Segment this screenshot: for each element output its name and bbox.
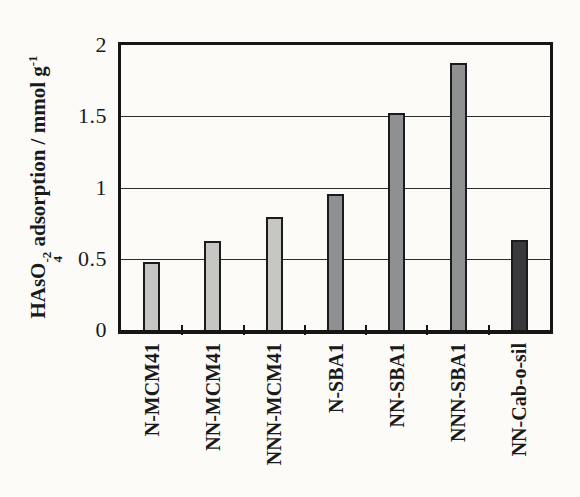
- x-category-label-N-SBA1: N-SBA1: [324, 343, 348, 493]
- bar-NN-MCM41: [204, 241, 221, 330]
- y-tick-label-2: 2: [0, 31, 107, 59]
- bar-N-SBA1: [327, 194, 344, 330]
- x-axis-tick: [304, 325, 306, 335]
- gridline-1: [121, 188, 550, 189]
- x-axis-tick: [426, 325, 428, 335]
- gridline-1.5: [121, 116, 550, 117]
- x-category-label-NN-SBA1: NN-SBA1: [385, 343, 409, 493]
- x-category-label-N-MCM41: N-MCM41: [140, 343, 164, 493]
- x-axis-tick: [488, 325, 490, 335]
- bar-NNN-MCM41: [266, 217, 283, 330]
- y-tick-label-0: 0: [0, 316, 107, 344]
- x-axis-tick: [243, 325, 245, 335]
- y-tick-label-0.5: 0.5: [0, 245, 107, 273]
- x-axis-tick: [181, 325, 183, 335]
- y-axis-title-middle: adsorption / mmol g: [26, 66, 50, 252]
- x-category-label-NN-Cab-o-sil: NN-Cab-o-sil: [507, 343, 531, 493]
- bar-NNN-SBA1: [450, 63, 467, 330]
- bar-NN-Cab-o-sil: [511, 240, 528, 330]
- x-category-label-NN-MCM41: NN-MCM41: [201, 343, 225, 493]
- y-tick-label-1.5: 1.5: [0, 102, 107, 130]
- x-category-label-NNN-SBA1: NNN-SBA1: [446, 343, 470, 493]
- bar-NN-SBA1: [388, 113, 405, 330]
- y-tick-label-1: 1: [0, 174, 107, 202]
- bar-chart-figure: HAsO-24 adsorption / mmol g-1 00.511.52 …: [0, 0, 580, 497]
- bar-N-MCM41: [143, 262, 160, 330]
- plot-area: [118, 42, 553, 334]
- x-category-label-NNN-MCM41: NNN-MCM41: [262, 343, 286, 493]
- x-axis-tick: [365, 325, 367, 335]
